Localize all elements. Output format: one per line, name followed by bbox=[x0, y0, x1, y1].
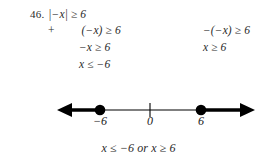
tick-label-six: 6 bbox=[186, 114, 216, 128]
case-positive-solved-line: x ≤ −6 bbox=[0, 55, 249, 72]
problem-statement: |−x| ≥ 6 bbox=[48, 8, 86, 20]
case-positive-simplified: −x ≥ 6 bbox=[79, 41, 110, 53]
case-negative-line: −(−x) ≥ 6 bbox=[170, 21, 277, 38]
case-positive-line: + (−x) ≥ 6 bbox=[0, 21, 170, 38]
arrowhead-right-icon bbox=[240, 103, 255, 117]
plus-operator: + bbox=[0, 24, 55, 36]
case-negative-simplified-line: x ≥ 6 bbox=[170, 38, 277, 55]
problem-line: 46. |−x| ≥ 6 bbox=[0, 5, 200, 22]
step-row-solved: x ≤ −6 bbox=[0, 55, 277, 71]
final-answer-text: x ≤ −6 or x ≥ 6 bbox=[101, 141, 175, 155]
step-row-simplified: −x ≥ 6 x ≥ 6 bbox=[0, 38, 277, 54]
arrowhead-left-icon bbox=[57, 103, 72, 117]
tick-label-negative-six: −6 bbox=[85, 114, 115, 128]
case-negative-simplified: x ≥ 6 bbox=[203, 41, 226, 53]
number-line-graph: −6 0 6 bbox=[0, 88, 277, 134]
tick-label-zero: 0 bbox=[135, 114, 165, 128]
case-negative-expression: −(−x) ≥ 6 bbox=[203, 24, 250, 36]
problem-number: 46. bbox=[30, 8, 44, 20]
final-answer: x ≤ −6 or x ≥ 6 bbox=[0, 138, 277, 158]
case-positive-expression: (−x) ≥ 6 bbox=[59, 24, 121, 36]
case-positive-solution: x ≤ −6 bbox=[79, 58, 110, 70]
solution-steps: 46. |−x| ≥ 6 + (−x) ≥ 6 −(−x) ≥ 6 −x ≥ 6… bbox=[0, 0, 277, 88]
step-row-problem: 46. |−x| ≥ 6 bbox=[0, 5, 277, 21]
step-row-cases: + (−x) ≥ 6 −(−x) ≥ 6 bbox=[0, 21, 277, 37]
worked-solution-figure: 46. |−x| ≥ 6 + (−x) ≥ 6 −(−x) ≥ 6 −x ≥ 6… bbox=[0, 0, 277, 160]
